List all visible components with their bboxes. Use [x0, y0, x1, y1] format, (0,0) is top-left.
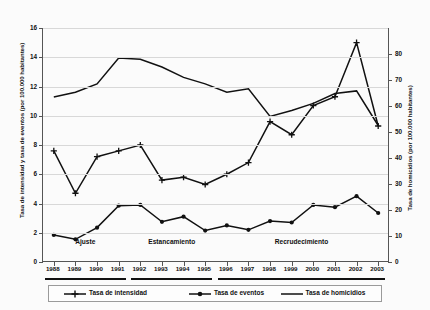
- legend-item-label: Tasa de intensidad: [89, 290, 147, 297]
- y-tick-label-left: 12: [19, 84, 37, 90]
- y-tick-label-right: 60: [395, 103, 413, 109]
- period-label: Recrudecimiento: [218, 239, 385, 246]
- y-tick-left: [39, 233, 43, 234]
- data-point-marker: [94, 154, 100, 160]
- legend-key-icon: [188, 289, 212, 299]
- y-tick-label-left: 2: [19, 230, 37, 236]
- gridline: [43, 87, 389, 88]
- y-tick-right: [388, 262, 392, 263]
- legend-item-label: Tasa de eventos: [214, 290, 264, 297]
- y-tick-label-left: 8: [19, 142, 37, 148]
- y-tick-right: [388, 184, 392, 185]
- period-label: Ajuste: [45, 239, 126, 246]
- y-tick-label-left: 6: [19, 171, 37, 177]
- y-tick-left: [39, 116, 43, 117]
- y-tick-right: [388, 54, 392, 55]
- data-point-marker: [160, 220, 164, 224]
- data-point-marker: [354, 194, 358, 198]
- y-tick-right: [388, 80, 392, 81]
- y-tick-label-right: 50: [395, 129, 413, 135]
- y-tick-label-right: 70: [395, 77, 413, 83]
- series-line: [54, 43, 378, 194]
- gridline: [43, 116, 389, 117]
- y-tick-right: [388, 210, 392, 211]
- y-tick-left: [39, 145, 43, 146]
- data-point-marker: [268, 219, 272, 223]
- legend-item[interactable]: Tasa de intensidad: [49, 286, 182, 301]
- gridline: [43, 28, 389, 29]
- data-point-marker: [353, 40, 359, 46]
- gridline: [43, 57, 389, 58]
- y-tick-label-right: 40: [395, 155, 413, 161]
- y-tick-left: [39, 87, 43, 88]
- y-tick-left: [39, 262, 43, 263]
- x-tick-label: 2003: [362, 266, 392, 272]
- y-tick-right: [388, 236, 392, 237]
- y-tick-right: [388, 132, 392, 133]
- y-tick-label-left: 0: [19, 259, 37, 265]
- y-tick-label-right: 10: [395, 233, 413, 239]
- legend-item[interactable]: Tasa de homicidios: [274, 286, 381, 301]
- data-point-marker: [333, 205, 337, 209]
- legend-key-icon: [63, 289, 87, 299]
- data-point-marker: [246, 228, 250, 232]
- data-point-marker: [290, 220, 294, 224]
- data-point-marker: [202, 181, 208, 187]
- data-point-marker: [116, 148, 122, 154]
- y-tick-label-left: 4: [19, 201, 37, 207]
- data-point-marker: [51, 148, 57, 154]
- period-bar: [218, 278, 385, 280]
- data-point-marker: [225, 223, 229, 227]
- y-axis-title-right: Tasa de homicidios (por 100.000 habitant…: [407, 78, 413, 218]
- data-point-marker: [72, 190, 78, 196]
- right-axis-line: [388, 28, 389, 262]
- y-tick-right: [388, 106, 392, 107]
- plot-area: 0246810121416: [42, 28, 388, 262]
- chart-figure: Tasa de intensidad y tasa de eventos (po…: [0, 0, 430, 310]
- data-point-marker: [95, 226, 99, 230]
- y-tick-label-right: 80: [395, 51, 413, 57]
- y-tick-left: [39, 174, 43, 175]
- legend-item[interactable]: Tasa de eventos: [182, 286, 274, 301]
- y-tick-label-left: 14: [19, 54, 37, 60]
- gridline: [43, 145, 389, 146]
- y-tick-label-right: 0: [395, 259, 413, 265]
- y-tick-right: [388, 158, 392, 159]
- y-tick-left: [39, 57, 43, 58]
- legend-key-icon: [280, 289, 304, 299]
- y-tick-left: [39, 28, 43, 29]
- gridline: [43, 233, 389, 234]
- period-bar: [131, 278, 212, 280]
- data-point-marker: [245, 159, 251, 165]
- data-point-marker: [375, 123, 381, 129]
- data-point-marker: [376, 211, 380, 215]
- period-bar: [45, 278, 126, 280]
- gridline: [43, 204, 389, 205]
- y-tick-label-left: 16: [19, 25, 37, 31]
- y-tick-label-right: 30: [395, 181, 413, 187]
- chart-legend: Tasa de intensidadTasa de eventosTasa de…: [48, 285, 382, 302]
- legend-item-label: Tasa de homicidios: [306, 290, 366, 297]
- y-tick-label-right: 20: [395, 207, 413, 213]
- gridline: [43, 174, 389, 175]
- y-tick-label-left: 10: [19, 113, 37, 119]
- period-label: Estancamiento: [131, 239, 212, 246]
- data-point-marker: [181, 215, 185, 219]
- y-tick-left: [39, 204, 43, 205]
